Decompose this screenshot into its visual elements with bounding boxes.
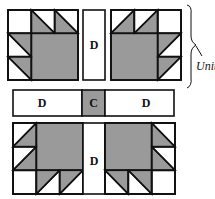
top-d-strip: D: [83, 10, 105, 80]
middle-right-d-strip: [105, 90, 174, 116]
middle-left-label: D: [38, 96, 47, 110]
bottom-strip-label: D: [90, 154, 99, 168]
bottom-d-strip: D: [83, 123, 105, 194]
middle-right-label: D: [142, 96, 151, 110]
bottom-right-block: [105, 123, 175, 194]
middle-left-d-strip: [13, 90, 82, 116]
top-left-block: [8, 10, 78, 80]
top-strip-label: D: [90, 38, 99, 52]
top-right-block: [111, 10, 181, 80]
middle-center-label: C: [89, 96, 98, 110]
unit-brace: [187, 5, 202, 88]
bottom-left-block: [13, 123, 83, 194]
quilt-diagram: D Unit D C D: [0, 0, 215, 199]
unit-label: Unit: [196, 59, 215, 73]
